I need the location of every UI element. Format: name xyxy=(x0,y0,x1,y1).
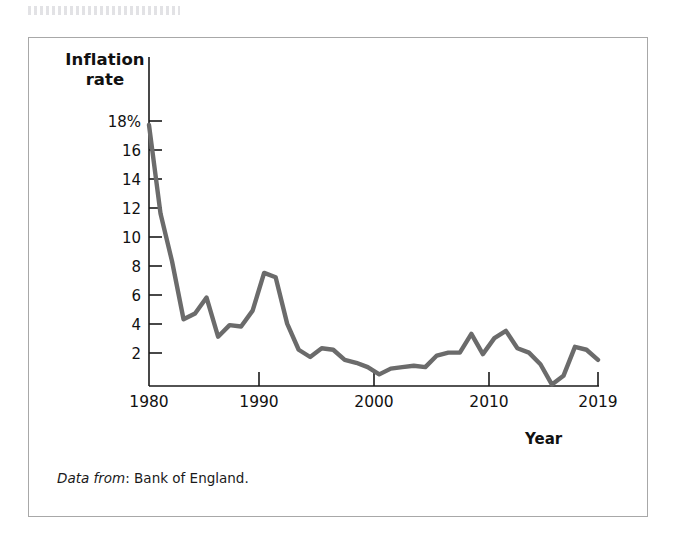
y-tick-label: 16 xyxy=(69,144,141,159)
caption-source-name: Bank of England. xyxy=(134,470,249,486)
y-axis-title: Inflation rate xyxy=(49,50,161,90)
y-tick-label: 14 xyxy=(69,173,141,188)
caption-source-label: Data from xyxy=(57,470,125,486)
y-tick-label: 4 xyxy=(69,318,141,333)
y-axis-title-line1: Inflation xyxy=(65,50,144,69)
inflation-data-line xyxy=(149,125,598,385)
figure-caption: Data from: Bank of England. xyxy=(57,470,249,486)
y-tick-label: 6 xyxy=(69,289,141,304)
x-tick-label: 1980 xyxy=(109,395,189,411)
y-tick-label: 10 xyxy=(69,231,141,246)
y-tick-label: 18% xyxy=(69,115,141,130)
x-tick-label: 2010 xyxy=(449,395,529,411)
figure-frame: 18% 16 14 12 10 8 6 4 2 1980 1990 2000 2… xyxy=(28,37,648,517)
scan-artifact xyxy=(28,6,180,15)
y-tick-label: 2 xyxy=(69,347,141,362)
caption-separator: : xyxy=(125,470,134,486)
y-axis-title-line2: rate xyxy=(86,70,125,89)
x-tick-label: 1990 xyxy=(219,395,299,411)
x-axis-title: Year xyxy=(525,430,562,448)
y-tick-label: 8 xyxy=(69,260,141,275)
x-tick-label: 2019 xyxy=(558,395,638,411)
x-tick-label: 2000 xyxy=(334,395,414,411)
y-tick-label: 12 xyxy=(69,202,141,217)
